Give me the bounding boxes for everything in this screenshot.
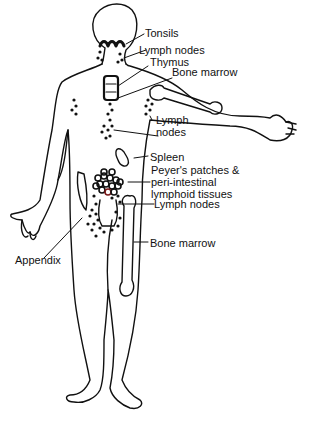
lymph-node-dot <box>148 108 151 111</box>
lymphoid-organs-diagram: Tonsils Lymph nodes Thymus Bone marrow L… <box>0 0 311 422</box>
lymph-node-dot <box>90 228 93 231</box>
peyers-patch-blob <box>107 175 113 181</box>
lymph-node-dot <box>92 222 95 225</box>
tonsils-shape <box>100 42 124 47</box>
lymph-node-dot <box>144 112 147 115</box>
lymph-node-dot <box>114 210 117 213</box>
lymph-node-dot <box>150 102 153 105</box>
spleen-shape <box>116 149 129 166</box>
lymph-node-dot <box>94 212 97 215</box>
lymph-node-dot <box>110 196 113 199</box>
lymph-node-dot <box>90 208 93 211</box>
lymph-node-dot <box>100 58 103 61</box>
peyers-patch-blob <box>99 187 105 193</box>
label-lymph-nodes-axillary: Lymph nodes <box>156 114 189 138</box>
peyers-patch-blob <box>109 169 115 175</box>
lymph-node-dot <box>98 226 101 229</box>
label-bone-marrow-arm: Bone marrow <box>172 66 237 78</box>
lymph-node-dot <box>96 56 99 59</box>
lymph-node-dot <box>118 216 121 219</box>
head-outline <box>93 4 137 64</box>
lymph-node-dot <box>144 104 147 107</box>
label-lymph-nodes-neck: Lymph nodes <box>139 44 205 56</box>
peyers-patch-blob <box>101 169 107 175</box>
label-lymph-nodes-inguinal: Lymph nodes <box>154 198 220 210</box>
pelvis-block <box>99 200 118 226</box>
lymph-node-dot <box>100 130 103 133</box>
peyers-patch-blob <box>105 189 111 195</box>
thymus-inner <box>106 84 116 92</box>
lymph-node-dot <box>118 52 121 55</box>
lymph-node-dot <box>92 194 95 197</box>
lymph-node-dot <box>106 128 109 131</box>
peyers-patch-blob <box>111 189 117 195</box>
lymph-node-dot <box>120 58 123 61</box>
lymph-node-dot <box>108 134 111 137</box>
label-appendix: Appendix <box>15 254 61 266</box>
lymph-node-dot <box>116 194 119 197</box>
lymph-node-dot <box>146 98 149 101</box>
peyers-patch-blob <box>103 181 109 187</box>
peyers-patch-blob <box>95 175 101 181</box>
label-bone-marrow-leg: Bone marrow <box>150 237 215 249</box>
label-tonsils: Tonsils <box>145 27 179 39</box>
lymph-node-dot <box>102 124 105 127</box>
femur-bone <box>120 196 136 296</box>
label-spleen: Spleen <box>150 151 184 163</box>
lymph-node-dot <box>116 60 119 63</box>
lymph-node-dot <box>104 136 107 139</box>
peyers-patch-cluster <box>93 169 123 195</box>
lymph-node-dot <box>72 98 75 101</box>
thymus-shape <box>104 76 118 100</box>
lymph-node-dot <box>116 224 119 227</box>
lymph-node-dot <box>102 230 105 233</box>
lymph-node-dot <box>70 108 73 111</box>
lymph-node-dot <box>98 50 101 53</box>
peyers-patch-blob <box>109 183 115 189</box>
lymph-node-dot <box>96 218 99 221</box>
lymph-node-dot <box>74 104 77 107</box>
lymph-node-dot <box>74 112 77 115</box>
lymph-node-dot <box>110 108 113 111</box>
lymph-node-dot <box>110 228 113 231</box>
lymph-node-dot <box>94 234 97 237</box>
left-hand-fingers <box>21 220 36 239</box>
lymph-node-dot <box>110 124 113 127</box>
lymph-node-dot <box>86 222 89 225</box>
lymph-node-dot <box>88 214 91 217</box>
lymph-node-dot <box>94 202 97 205</box>
lymph-node-dot <box>118 200 121 203</box>
label-peyers-patches: Peyer's patches & peri-intestinal lympho… <box>151 164 239 200</box>
lymph-node-dot <box>108 102 111 105</box>
colon-outline <box>77 172 86 210</box>
lymph-node-dot <box>106 112 109 115</box>
lymph-node-dot <box>108 118 111 121</box>
